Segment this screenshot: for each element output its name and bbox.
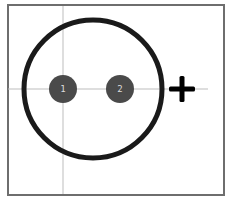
pad-1[interactable]: 1 bbox=[49, 75, 77, 103]
pad-2-label: 2 bbox=[117, 84, 122, 94]
footprint-canvas: 1 2 bbox=[0, 0, 228, 202]
pad-1-label: 1 bbox=[60, 84, 65, 94]
pad-2[interactable]: 2 bbox=[106, 75, 134, 103]
polarity-plus-icon bbox=[169, 76, 195, 102]
